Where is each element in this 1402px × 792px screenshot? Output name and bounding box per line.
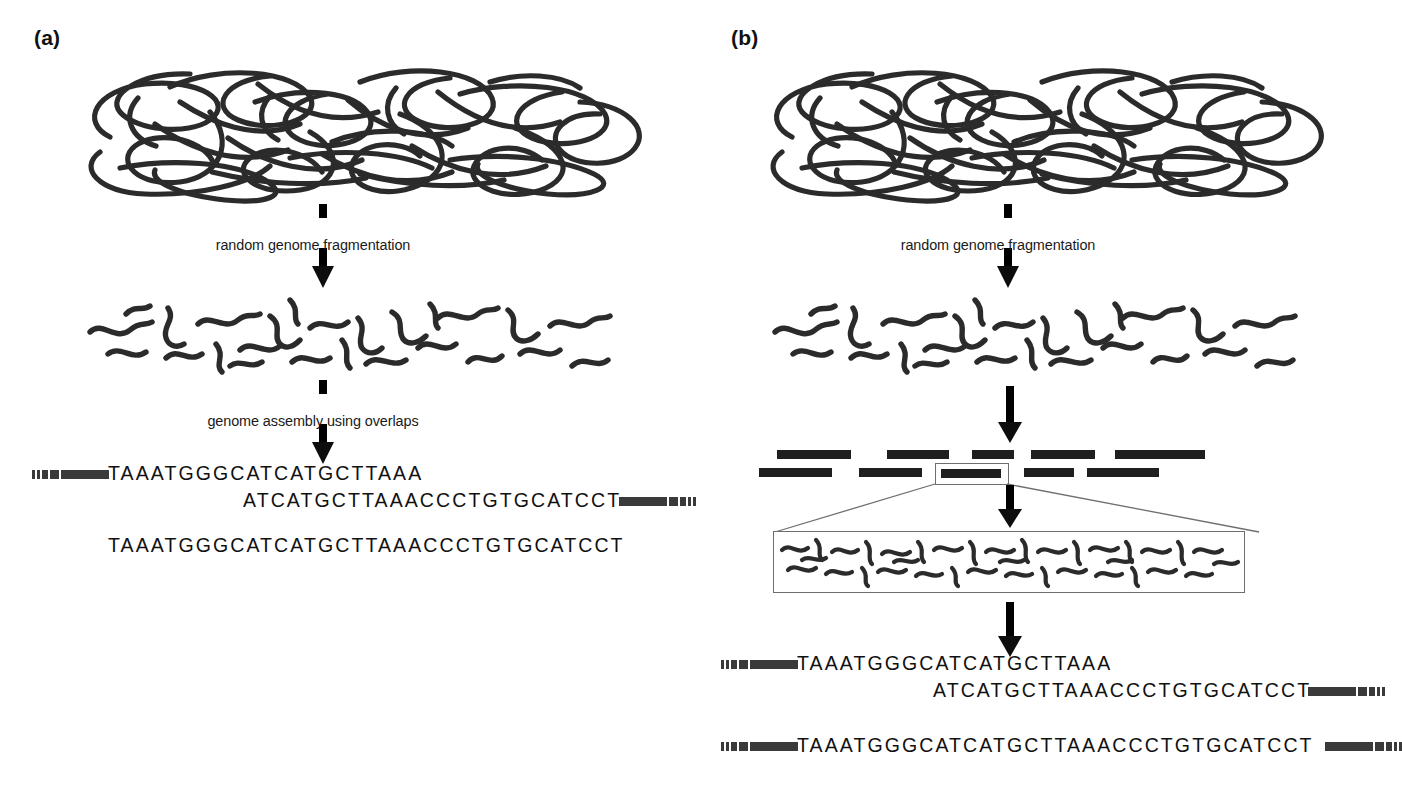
read-sequence-b-2: ATCATGCTTAAACCCTGTGCATCCT xyxy=(933,679,1311,702)
down-arrow-icon xyxy=(997,485,1023,529)
consensus-trail-ticks-b xyxy=(1325,742,1402,751)
dna-fragments-icon xyxy=(765,292,1305,378)
consensus-sequence-b: TAAATGGGCATCATGCTTAAACCCTGTGCATCCT xyxy=(797,734,1314,757)
contig-tile xyxy=(887,450,949,459)
contig-tile xyxy=(859,468,922,477)
clone-map-arrow-b xyxy=(997,386,1023,444)
fragment-field-b xyxy=(765,292,1305,378)
dna-fragments-icon xyxy=(80,292,620,378)
subclone-fragments-icon xyxy=(774,532,1242,590)
fragmentation-caption-b: random genome fragmentation xyxy=(863,236,1133,254)
fragment-field-a xyxy=(80,292,620,378)
read-sequence-b-1: TAAATGGGCATCATGCTTAAA xyxy=(797,652,1112,675)
down-arrow-icon xyxy=(997,386,1023,444)
read-sequence-a-2: ATCATGCTTAAACCCTGTGCATCCT xyxy=(243,489,621,512)
genome-tangle-icon xyxy=(60,42,660,207)
assembly-arrow-b xyxy=(997,602,1023,658)
contig-tile xyxy=(1115,450,1205,459)
contig-tile xyxy=(1031,450,1095,459)
panel-a-label: (a) xyxy=(34,26,60,50)
read-lead-ticks-b-1 xyxy=(721,660,798,669)
assembly-caption-a: genome assembly using overlaps xyxy=(178,412,448,430)
genome-tangle-a xyxy=(60,42,660,207)
subclone-arrow-b xyxy=(997,485,1023,529)
contig-tile xyxy=(972,450,1014,459)
panel-b: (b) xyxy=(697,0,1397,792)
contig-tile xyxy=(777,450,851,459)
consensus-lead-ticks-b xyxy=(721,742,798,751)
contig-tile xyxy=(759,468,832,477)
read-trail-ticks-b-2 xyxy=(1308,687,1385,696)
down-arrow-icon xyxy=(997,602,1023,658)
panel-a: (a) xyxy=(0,0,700,792)
read-lead-ticks-a-1 xyxy=(32,470,109,479)
contig-tile xyxy=(1087,468,1159,477)
read-sequence-a-1: TAAATGGGCATCATGCTTAAA xyxy=(108,462,423,485)
read-trail-ticks-a-2 xyxy=(619,497,696,506)
subclone-inset-box xyxy=(773,531,1245,593)
contig-tile xyxy=(1024,468,1074,477)
genome-tangle-icon xyxy=(742,42,1342,207)
fragmentation-caption-a: random genome fragmentation xyxy=(178,236,448,254)
genome-tangle-b xyxy=(742,42,1342,207)
consensus-sequence-a: TAAATGGGCATCATGCTTAAACCCTGTGCATCCT xyxy=(108,534,625,557)
